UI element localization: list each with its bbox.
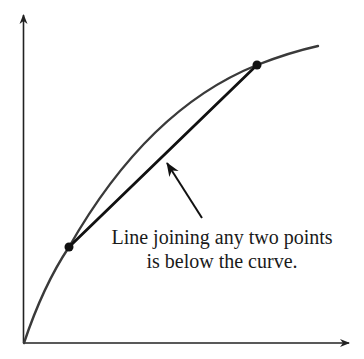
annotation-label: Line joining any two points is below the… [100,225,344,273]
pointer-arrow-icon [167,163,202,218]
annotation-line-2: is below the curve. [100,249,344,273]
concavity-diagram [0,0,364,359]
lower-point [65,243,74,252]
concave-curve [24,46,318,343]
annotation-line-1: Line joining any two points [100,225,344,249]
upper-point [253,61,262,70]
chord-line [69,65,257,247]
